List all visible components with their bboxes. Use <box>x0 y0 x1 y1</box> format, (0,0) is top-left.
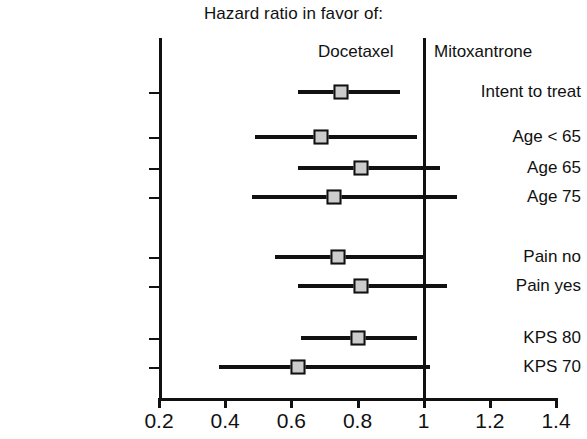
x-tick <box>357 398 360 408</box>
y-tick <box>149 197 160 199</box>
hazard-ratio-marker <box>333 85 348 100</box>
confidence-interval-bar <box>298 90 401 94</box>
row-label-pain-yes: Pain yes <box>441 276 587 296</box>
confidence-interval-bar <box>275 255 424 259</box>
hazard-ratio-marker <box>350 331 365 346</box>
row-label-age-75: Age 75 <box>441 187 587 207</box>
confidence-interval-bar <box>298 284 447 288</box>
group-label-docetaxel: Docetaxel <box>318 42 394 62</box>
y-tick <box>149 338 160 340</box>
chart-title: Hazard ratio in favor of: <box>0 4 587 24</box>
x-tick <box>290 398 293 408</box>
confidence-interval-bar <box>219 365 431 369</box>
hazard-ratio-marker <box>314 130 329 145</box>
row-label-age-65: Age < 65 <box>441 127 587 147</box>
x-tick <box>555 398 558 408</box>
hazard-ratio-marker <box>353 279 368 294</box>
y-tick <box>149 286 160 288</box>
forest-plot: Hazard ratio in favor of: Docetaxel Mito… <box>0 0 587 439</box>
row-label-age-65: Age 65 <box>441 158 587 178</box>
hazard-ratio-marker <box>353 161 368 176</box>
confidence-interval-bar <box>255 135 417 139</box>
x-tick-label: 0.2 <box>144 409 173 433</box>
x-tick <box>158 398 161 408</box>
row-label-kps-80: KPS 80 <box>441 328 587 348</box>
hazard-ratio-marker <box>327 190 342 205</box>
x-tick <box>423 398 426 408</box>
row-label-pain-no: Pain no <box>441 247 587 267</box>
y-tick <box>149 137 160 139</box>
y-tick <box>149 367 160 369</box>
y-tick <box>149 92 160 94</box>
x-tick-label: 1 <box>418 409 430 433</box>
reference-line-at-1 <box>423 38 426 400</box>
confidence-interval-bar <box>298 166 440 170</box>
x-tick-label: 0.8 <box>343 409 372 433</box>
x-tick-label: 1.2 <box>475 409 504 433</box>
x-tick-label: 0.6 <box>277 409 306 433</box>
row-label-intent-to-treat: Intent to treat <box>441 82 587 102</box>
group-label-mitoxantrone: Mitoxantrone <box>434 42 532 62</box>
x-tick-label: 1.4 <box>541 409 570 433</box>
y-tick <box>149 168 160 170</box>
x-tick-label: 0.4 <box>211 409 240 433</box>
x-tick <box>489 398 492 408</box>
y-tick <box>149 257 160 259</box>
confidence-interval-bar <box>252 195 457 199</box>
x-tick <box>224 398 227 408</box>
hazard-ratio-marker <box>330 250 345 265</box>
row-label-kps-70: KPS 70 <box>441 357 587 377</box>
hazard-ratio-marker <box>290 360 305 375</box>
